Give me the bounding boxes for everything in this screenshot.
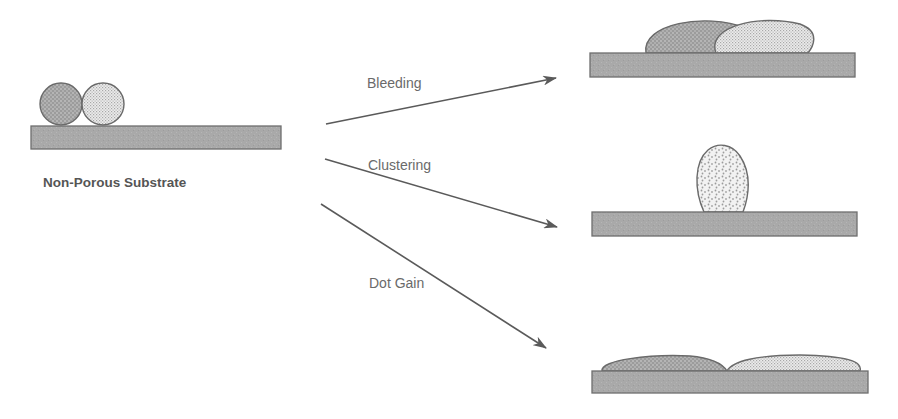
arrows: Bleeding Clustering Dot Gain: [321, 75, 557, 348]
label-dot-gain: Dot Gain: [369, 275, 424, 291]
arrow-bleeding: [326, 78, 556, 124]
substrate: [592, 371, 868, 393]
droplet-clustered: [697, 145, 748, 212]
arrow-dot-gain: [321, 204, 546, 348]
source-panel: Non-Porous Substrate: [31, 83, 281, 190]
substrate: [592, 212, 857, 236]
droplet-dark-flat: [602, 356, 727, 371]
label-bleeding: Bleeding: [367, 75, 422, 91]
result-bleeding: [590, 21, 855, 77]
substrate: [590, 53, 855, 77]
arrow-clustering: [325, 159, 557, 227]
source-caption: Non-Porous Substrate: [43, 175, 187, 190]
droplet-dark: [40, 83, 82, 125]
droplet-light: [82, 83, 124, 125]
substrate: [31, 126, 281, 149]
result-clustering: [592, 145, 857, 236]
result-dot-gain: [592, 355, 868, 393]
label-clustering: Clustering: [368, 157, 431, 173]
ink-droplet-behavior-diagram: Non-Porous Substrate Bleeding Clustering…: [0, 0, 898, 419]
droplet-light-flat: [727, 355, 860, 371]
